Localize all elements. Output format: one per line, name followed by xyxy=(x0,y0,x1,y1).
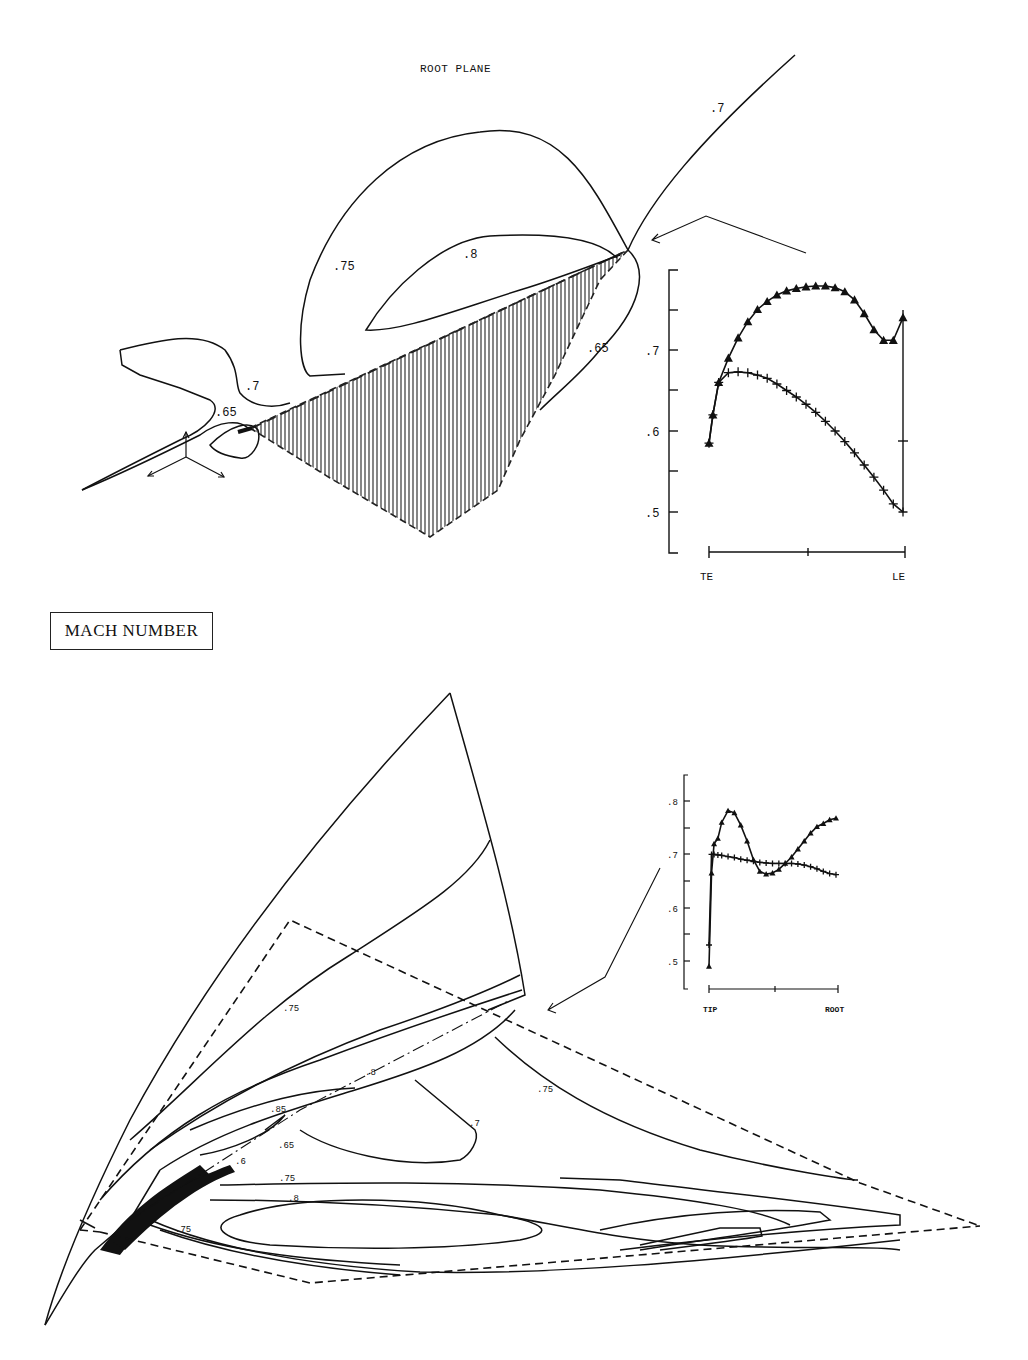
plus-marker-icon xyxy=(820,868,826,874)
plus-marker-icon xyxy=(719,852,725,858)
plus-marker-icon xyxy=(789,860,795,866)
triangle-marker-icon xyxy=(744,838,750,843)
plus-marker-icon xyxy=(706,942,712,948)
plus-marker-icon xyxy=(770,860,776,866)
svg-text:.6: .6 xyxy=(667,905,678,915)
plus-marker-icon xyxy=(763,860,769,866)
triangle-marker-icon xyxy=(719,819,725,824)
spanwise-mach-chart: .8 .7 .6 .5 TIP ROOT xyxy=(0,0,1028,1360)
plus-marker-icon xyxy=(795,861,801,867)
plus-marker-icon xyxy=(757,859,763,865)
plus-marker-icon xyxy=(731,855,737,861)
triangle-marker-icon xyxy=(738,822,744,827)
triangle-marker-icon xyxy=(725,808,731,813)
plus-marker-icon xyxy=(833,872,839,878)
svg-text:.5: .5 xyxy=(667,958,678,968)
svg-text:TIP: TIP xyxy=(703,1005,718,1014)
svg-text:ROOT: ROOT xyxy=(825,1005,844,1014)
triangle-marker-icon xyxy=(706,963,712,968)
plus-marker-icon xyxy=(776,860,782,866)
plus-marker-icon xyxy=(744,857,750,863)
plus-marker-icon xyxy=(814,866,820,872)
plus-marker-icon xyxy=(738,856,744,862)
plus-marker-icon xyxy=(725,854,731,860)
triangle-marker-icon xyxy=(757,868,763,873)
series-line xyxy=(709,811,836,967)
svg-text:.7: .7 xyxy=(667,851,678,861)
plus-marker-icon xyxy=(827,871,833,877)
svg-text:.8: .8 xyxy=(667,798,678,808)
triangle-marker-icon xyxy=(833,815,839,820)
triangle-marker-icon xyxy=(820,820,826,825)
plus-marker-icon xyxy=(808,864,814,870)
triangle-marker-icon xyxy=(715,835,721,840)
plus-marker-icon xyxy=(801,862,807,868)
